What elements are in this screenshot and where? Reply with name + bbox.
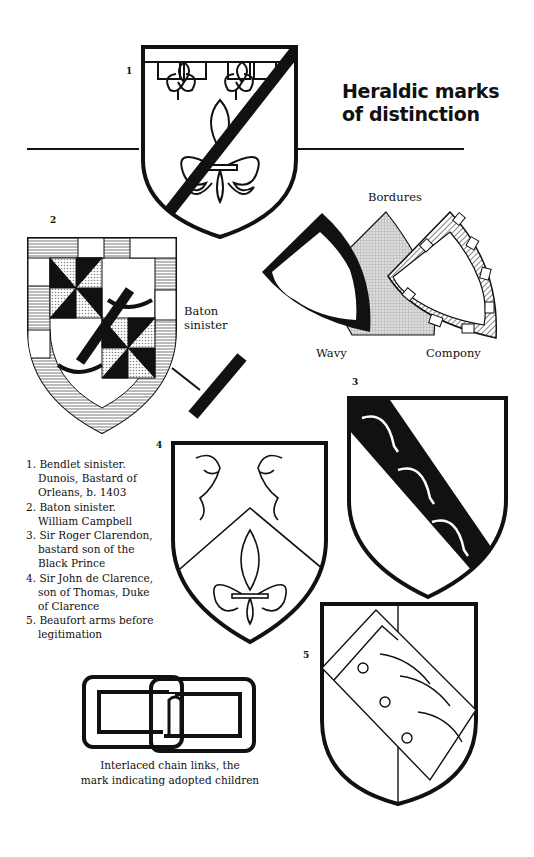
chain-links-icon (0, 0, 534, 857)
chain-caption: Interlaced chain links, the mark indicat… (70, 758, 270, 788)
